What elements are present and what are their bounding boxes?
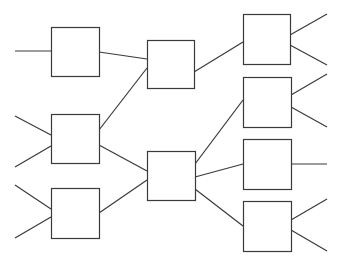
edge-c-to-e: [99, 180, 147, 213]
edge-g-to-output: [291, 107, 327, 127]
node-d: [148, 41, 195, 89]
node-f: [244, 15, 291, 65]
edge-e-to-g: [195, 100, 243, 164]
node-e: [148, 152, 196, 201]
edge-e-to-i: [195, 189, 243, 226]
node-b: [52, 115, 100, 164]
edge-i-to-output: [291, 230, 327, 251]
network-diagram: [0, 0, 340, 265]
edge-b-to-d: [99, 68, 147, 130]
node-a: [52, 28, 100, 77]
node-c: [52, 189, 100, 239]
nodes-layer: [52, 15, 292, 252]
edge-f-to-output: [290, 14, 327, 35]
node-g: [244, 78, 292, 128]
edge-g-to-output: [291, 74, 327, 95]
edge-e-to-h: [195, 164, 243, 177]
edge-i-to-output: [291, 199, 327, 220]
node-i: [244, 202, 292, 252]
edge-d-to-f: [194, 42, 243, 72]
edge-b-to-e: [99, 145, 147, 171]
edge-input-to-c: [15, 217, 51, 238]
edge-f-to-output: [290, 45, 327, 65]
edge-input-to-b: [15, 116, 51, 135]
edge-input-to-c: [15, 185, 51, 209]
node-h: [244, 140, 292, 190]
edge-input-to-b: [15, 146, 51, 167]
edge-a-to-d: [99, 52, 147, 59]
diagram-canvas: [0, 0, 340, 265]
